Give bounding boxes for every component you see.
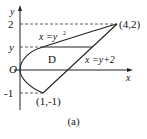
x-axis-label: x — [125, 72, 131, 83]
line-label: x =y+2 — [84, 54, 115, 65]
point-1-neg1-label: (1,-1) — [36, 95, 61, 108]
y-axis-arrow-icon — [18, 5, 22, 11]
tick-2: 2 — [8, 18, 14, 30]
tick-y: y — [8, 41, 14, 53]
figure-caption: (a) — [0, 115, 147, 127]
point-4-2-label: (4,2) — [119, 18, 140, 31]
y-axis-label: y — [9, 6, 15, 17]
tick-neg1: -1 — [4, 87, 13, 99]
parabola-exponent: 2 — [63, 30, 66, 36]
parabola-label: x =y — [38, 31, 58, 42]
region-label: D — [48, 53, 56, 65]
origin-label: O — [9, 63, 17, 75]
